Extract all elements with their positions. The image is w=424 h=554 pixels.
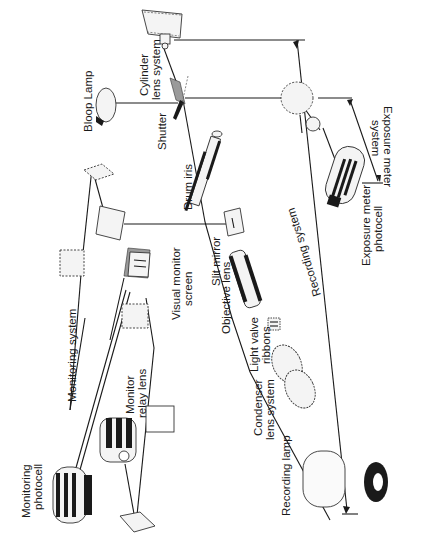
label-monitoring-photocell-line2: photocell	[32, 464, 44, 510]
monitor-mirrors	[60, 164, 125, 276]
slit-mirror	[224, 208, 244, 236]
label-condenser-line2: lens system	[264, 379, 276, 440]
label-cylinder-lens-line1: Cylinder	[138, 54, 150, 96]
label-exposure-meter-photocell-line2: photocell	[372, 206, 384, 252]
label-exposure-meter-system-line1: Exposure meter	[382, 106, 394, 187]
label-condenser-line1: Condenser	[252, 380, 264, 436]
labels: Bloop Lamp Cylinder lens system Shutter …	[20, 39, 394, 518]
label-monitoring-system: Monitoring system	[66, 309, 78, 402]
label-exposure-meter-system-line2: system	[370, 120, 382, 156]
label-monitor-relay-line2: relay lens	[136, 369, 148, 418]
monitoring-photocell	[53, 467, 92, 523]
label-light-valve-line2: ribbons	[260, 326, 272, 364]
label-monitor-relay-line1: Monitor	[124, 375, 136, 414]
monitor-relay-lens	[100, 418, 136, 462]
label-cylinder-lens-line2: lens system	[150, 39, 162, 100]
bloop-lamp	[96, 88, 116, 126]
film-gate	[142, 10, 182, 49]
label-drum-iris: Drum iris	[182, 164, 194, 210]
visual-monitor-screen	[124, 248, 150, 278]
optical-recording-diagram: Bloop Lamp Cylinder lens system Shutter …	[0, 0, 424, 554]
label-objective-lens: Objective lens	[220, 262, 232, 334]
label-monitoring-photocell-line1: Monitoring	[20, 464, 32, 518]
label-visual-monitor-line2: screen	[182, 271, 194, 306]
label-exposure-meter-photocell-line1: Exposure meter	[360, 185, 372, 266]
label-light-valve-line1: Light valve	[248, 317, 260, 372]
exposure-meter-optics	[281, 82, 320, 133]
objective-lens	[228, 249, 262, 309]
label-recording-system: Recording system	[285, 206, 323, 298]
label-visual-monitor-line1: Visual monitor	[170, 247, 182, 320]
label-bloop-lamp: Bloop Lamp	[82, 71, 94, 132]
label-shutter: Shutter	[156, 113, 168, 150]
monitor-reticle	[122, 304, 148, 328]
monitor-box	[146, 406, 174, 432]
label-recording-lamp: Recording lamp	[280, 435, 292, 516]
monitor-bottom-mirror	[120, 512, 155, 532]
